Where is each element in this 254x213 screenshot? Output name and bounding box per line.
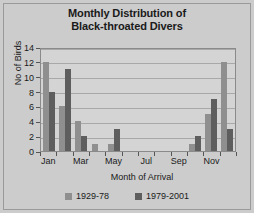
chart-figure: Monthly Distribution of Black-throated D… <box>0 0 254 213</box>
bar-group <box>203 49 219 151</box>
x-axis-title: Month of Arrival <box>40 172 244 182</box>
x-tick-label: Sep <box>171 156 187 166</box>
bar-group <box>154 49 170 151</box>
chart-title: Monthly Distribution of Black-throated D… <box>0 7 254 33</box>
chart-legend: 1929-781979-2001 <box>0 191 254 201</box>
y-tick-label: 2 <box>29 133 34 141</box>
bar-group <box>57 49 73 151</box>
bar <box>195 136 201 151</box>
y-tick-label: 14 <box>24 44 34 52</box>
y-axis-ticks: 02468101214 <box>0 48 40 152</box>
chart-title-line-2: Black-throated Divers <box>0 20 254 33</box>
bar <box>114 129 120 151</box>
plot-area <box>40 48 236 152</box>
bar <box>81 136 87 151</box>
legend-entry: 1979-2001 <box>135 191 189 201</box>
bar <box>211 99 217 151</box>
y-tick-label: 10 <box>24 74 34 82</box>
bar-group <box>41 49 57 151</box>
bar-group <box>90 49 106 151</box>
bar-group <box>106 49 122 151</box>
x-tick-label: Jul <box>140 156 152 166</box>
legend-swatch <box>65 193 72 200</box>
legend-swatch <box>135 193 142 200</box>
y-tick-label: 12 <box>24 59 34 67</box>
x-tick-label: May <box>105 156 122 166</box>
y-tick-label: 0 <box>29 148 34 156</box>
x-axis-tick-labels: JanMarMayJulSepNov <box>40 156 236 168</box>
bar-group <box>170 49 186 151</box>
bar-groups <box>41 49 235 151</box>
x-tick-label: Mar <box>73 156 89 166</box>
legend-entry: 1929-78 <box>65 191 109 201</box>
y-tick-label: 8 <box>29 89 34 97</box>
chart-title-line-1: Monthly Distribution of <box>0 7 254 20</box>
x-tick-label: Jan <box>41 156 56 166</box>
x-tick-mark <box>236 152 237 156</box>
bar <box>227 129 233 151</box>
legend-label: 1929-78 <box>76 191 109 201</box>
y-tick-label: 6 <box>29 103 34 111</box>
bar <box>92 144 98 151</box>
bar <box>49 92 55 151</box>
bar-group <box>73 49 89 151</box>
x-tick-label: Nov <box>203 156 219 166</box>
y-tick-label: 4 <box>29 118 34 126</box>
bar <box>65 69 71 151</box>
bar-group <box>219 49 235 151</box>
legend-label: 1979-2001 <box>146 191 189 201</box>
bar-group <box>122 49 138 151</box>
bar-group <box>138 49 154 151</box>
bar-group <box>187 49 203 151</box>
